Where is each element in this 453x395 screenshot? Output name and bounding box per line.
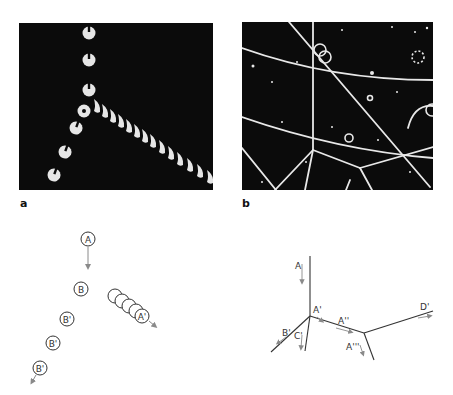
diagram-a: A B B' B' B' A' <box>20 225 220 390</box>
diagram-a-label-B2: B' <box>49 339 58 349</box>
diagram-b: A A' A'' A''' B' C' D' <box>260 250 450 375</box>
panel-a-photo <box>19 23 213 190</box>
diagram-b-label-D1: D' <box>420 302 429 312</box>
diagram-b-label-A2: A'' <box>338 316 349 326</box>
panel-a-label: a <box>20 197 27 210</box>
diagram-b-label-A3: A''' <box>346 342 360 352</box>
diagram-a-label-A: A <box>85 235 92 245</box>
bubble-chamber-image <box>242 22 433 190</box>
panel-b-photo <box>242 22 433 190</box>
diagram-a-label-B1: B' <box>63 315 72 325</box>
diagram-b-label-B1: B' <box>282 328 291 338</box>
diagram-a-label-A1: A' <box>138 312 147 322</box>
diagram-a-label-B3: B' <box>36 364 45 374</box>
diagram-b-label-A: A <box>295 261 302 271</box>
diagram-a-label-B: B <box>78 285 84 295</box>
diagram-b-label-C1: C' <box>294 331 303 341</box>
diagram-b-label-A1: A' <box>313 305 322 315</box>
bubble-track-image <box>19 23 213 190</box>
panel-b-label: b <box>242 197 250 210</box>
